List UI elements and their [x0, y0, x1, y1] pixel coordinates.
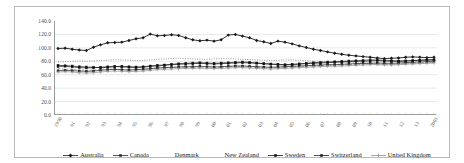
legend-marker-icon — [158, 152, 173, 159]
x-tick-label: 2001 — [428, 116, 439, 128]
y-tick-label: 100.0 — [38, 45, 51, 51]
data-point — [206, 62, 208, 64]
data-point — [341, 61, 343, 63]
series-line-australia — [58, 34, 434, 59]
data-point — [78, 48, 81, 51]
data-point — [248, 36, 251, 39]
data-point — [99, 43, 102, 46]
x-tick-label: 12 — [397, 120, 405, 128]
data-point — [106, 41, 109, 44]
x-tick-label: 1990 — [52, 116, 63, 128]
chart-legend: AustraliaCanadaDenmarkNew ZealandSwedenS… — [39, 148, 455, 162]
legend-item-sweden[interactable]: Sweden — [268, 151, 305, 159]
y-tick-label: 80.0 — [41, 58, 51, 64]
x-tick-label: 99 — [193, 120, 201, 128]
data-point — [99, 66, 101, 68]
y-tick-label: 120.0 — [38, 31, 51, 37]
data-point — [347, 54, 350, 57]
data-point — [276, 39, 279, 42]
x-tick-label: 94 — [115, 120, 123, 128]
figure-frame: 0.020.040.060.080.0100.0120.0140.0 19909… — [14, 6, 450, 158]
chart-screenshot: 0.020.040.060.080.0100.0120.0140.0 19909… — [0, 0, 464, 163]
legend-item-switzerland[interactable]: Switzerland — [314, 151, 362, 159]
legend-label: United Kingdom — [388, 151, 431, 159]
data-point — [85, 66, 87, 68]
y-tick-label: 40.0 — [41, 85, 51, 91]
legend-item-denmark[interactable]: Denmark — [158, 151, 199, 159]
legend-marker-icon — [208, 152, 223, 159]
data-point — [205, 38, 208, 41]
x-tick-label: 03 — [256, 120, 264, 128]
data-point — [220, 62, 222, 64]
data-point — [192, 62, 194, 64]
x-axis-labels: 1990919293949596979899000102030405060708… — [54, 115, 436, 141]
legend-marker-icon — [371, 152, 386, 159]
data-point — [255, 62, 257, 64]
data-point — [135, 66, 137, 68]
legend-item-canada[interactable]: Canada — [113, 151, 149, 159]
data-point — [411, 55, 414, 58]
x-tick-label: 93 — [99, 120, 107, 128]
x-tick-label: 02 — [240, 120, 248, 128]
legend-marker-icon — [63, 152, 78, 159]
data-point — [383, 60, 385, 62]
data-point — [298, 44, 301, 47]
data-point — [142, 65, 144, 67]
data-point — [64, 64, 66, 66]
data-point — [361, 55, 364, 58]
data-point — [128, 65, 130, 67]
legend-item-united-kingdom[interactable]: United Kingdom — [371, 151, 431, 159]
data-point — [114, 65, 116, 67]
legend-label: Sweden — [285, 151, 305, 159]
data-point — [368, 56, 371, 59]
data-point — [170, 63, 172, 65]
x-tick-label: 06 — [303, 120, 311, 128]
legend-item-new-zealand[interactable]: New Zealand — [208, 151, 259, 159]
data-point — [305, 46, 308, 49]
data-point — [290, 42, 293, 45]
data-point — [369, 60, 371, 62]
data-point — [255, 39, 258, 42]
data-point — [163, 64, 165, 66]
data-point — [354, 54, 357, 57]
x-tick-label: 92 — [84, 120, 92, 128]
x-tick-label: 07 — [319, 120, 327, 128]
x-tick-label: 98 — [178, 120, 186, 128]
y-tick-label: 60.0 — [41, 72, 51, 78]
data-point — [198, 39, 201, 42]
x-tick-label: 09 — [350, 120, 358, 128]
data-point — [248, 62, 250, 64]
data-point — [92, 45, 95, 48]
data-point — [397, 56, 400, 59]
data-point — [227, 62, 229, 64]
legend-item-australia[interactable]: Australia — [63, 151, 103, 159]
data-point — [319, 49, 322, 52]
data-point — [333, 52, 336, 55]
plot-area — [54, 21, 436, 115]
x-tick-label: 04 — [272, 120, 280, 128]
data-point — [348, 60, 350, 62]
y-tick-label: 0.0 — [44, 112, 51, 118]
x-tick-label: 11 — [381, 121, 389, 129]
data-point — [283, 40, 286, 43]
data-point — [149, 32, 152, 35]
x-tick-label: 95 — [131, 120, 139, 128]
x-tick-label: 00 — [209, 120, 217, 128]
data-point — [270, 63, 272, 65]
data-point — [184, 63, 186, 65]
data-point — [241, 61, 243, 63]
data-point — [376, 59, 378, 61]
data-point — [234, 33, 237, 36]
data-point — [134, 37, 137, 40]
data-point — [170, 33, 173, 36]
x-tick-label: 05 — [287, 120, 295, 128]
data-point — [418, 56, 421, 59]
y-axis-labels: 0.020.040.060.080.0100.0120.0140.0 — [15, 7, 54, 117]
data-point — [141, 36, 144, 39]
data-point — [63, 46, 66, 49]
legend-label: New Zealand — [225, 151, 259, 159]
legend-marker-icon — [314, 152, 329, 159]
data-point — [56, 47, 59, 50]
x-tick-label: 10 — [366, 120, 374, 128]
y-tick-label: 140.0 — [38, 18, 51, 24]
